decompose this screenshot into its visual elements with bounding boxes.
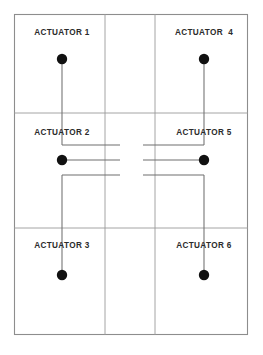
actuator-4-label: ACTUATOR 4	[175, 28, 233, 37]
actuator-1-label: ACTUATOR 1	[34, 28, 90, 37]
actuator-1-node	[57, 54, 67, 64]
actuator-5-node	[199, 155, 209, 165]
actuator-4-node	[199, 54, 209, 64]
actuator-diagram: ACTUATOR 1 ACTUATOR 2 ACTUATOR 3 ACTUATO…	[0, 0, 263, 355]
diagram-frame	[15, 15, 248, 335]
actuator-6-label: ACTUATOR 6	[176, 241, 232, 250]
actuator-6-node	[199, 270, 209, 280]
actuator-2-node	[57, 155, 67, 165]
grid-lines	[14, 14, 248, 335]
actuator-3-node	[57, 270, 67, 280]
diagram-canvas: ACTUATOR 1 ACTUATOR 2 ACTUATOR 3 ACTUATO…	[0, 0, 263, 355]
actuator-2-label: ACTUATOR 2	[34, 128, 90, 137]
actuator-3-label: ACTUATOR 3	[34, 241, 90, 250]
actuator-5-label: ACTUATOR 5	[176, 128, 232, 137]
